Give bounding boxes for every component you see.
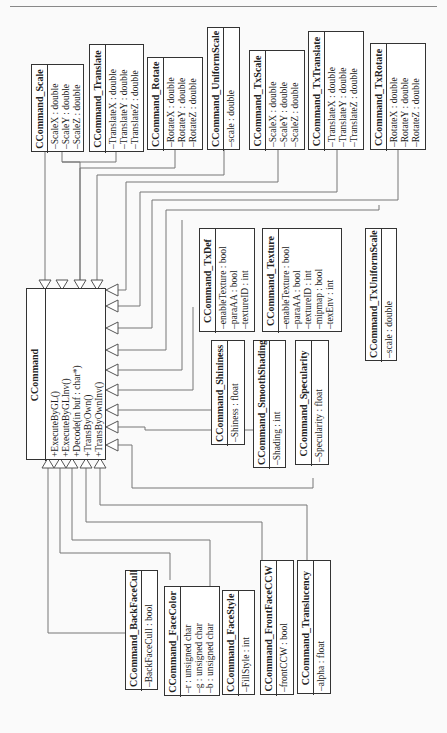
attribute: –textureID : int xyxy=(303,233,314,329)
class-name: CCommand_Specularity xyxy=(296,341,312,466)
attribute: –RotateY : double xyxy=(177,62,188,147)
attribute: –RotateZ : double xyxy=(411,48,422,147)
class-ccommand-txtranslate: CCommand_TxTranslate –TranslateX : doubl… xyxy=(308,31,364,150)
attribute: –enableTexture : bool xyxy=(218,233,229,329)
class-ccommand-frontfaceccw: CCommand_FrontFaceCCW –frontCCW : bool xyxy=(260,560,294,695)
class-ccommand-texture: CCommand_Texture –enableTexture : bool–p… xyxy=(262,228,342,332)
attribute: –Shading : int xyxy=(272,345,283,465)
attribute: –RotateZ : double xyxy=(188,62,199,147)
attribute: –ScaleX : double xyxy=(268,55,279,147)
attribute: –ScaleX : double xyxy=(50,69,61,149)
class-name: CCommand_Rotate xyxy=(148,58,164,151)
attribute: –Shiness : float xyxy=(230,345,241,442)
attribute: –BackFaceCull : bool xyxy=(144,575,155,687)
class-name: CCommand_Translucency xyxy=(298,561,314,695)
attribute: –r : unsigned char xyxy=(183,591,194,693)
attribute: –TranslateY : double xyxy=(338,36,349,147)
class-name: CCommand_TxDef xyxy=(200,229,216,333)
attribute: –RotateY : double xyxy=(400,48,411,147)
class-name: CCommand_TxTranslate xyxy=(309,32,325,151)
class-ccommand-scale: CCommand_Scale –ScaleX : double–ScaleY :… xyxy=(31,64,84,152)
class-name: CCommand_TxRotate xyxy=(371,44,387,151)
class-ccommand-shininess: CCommand_Shininess –Shiness : float xyxy=(211,340,245,445)
class-ccommand-translucency: CCommand_Translucency –alpha : float xyxy=(297,560,331,694)
method: +TransByOwnInv() xyxy=(94,293,105,457)
attribute: –scale : double xyxy=(226,32,237,147)
class-name: CCommand_FaceColor xyxy=(165,587,181,697)
attribute: –FillStyle : int xyxy=(241,595,252,692)
class-ccommand-txscale: CCommand_TxScale –ScaleX : double–ScaleY… xyxy=(249,50,305,150)
class-name: CCommand_UniformScale xyxy=(208,28,224,151)
method: +ExecuteByGL() xyxy=(50,293,61,457)
method: +ExecuteByGLInv() xyxy=(61,293,72,457)
class-ccommand-facestyle: CCommand_FaceStyle –FillStyle : int xyxy=(222,590,255,695)
attribute: –scale : double xyxy=(384,233,395,358)
attribute: –enableTexture : bool xyxy=(281,233,292,329)
class-ccommand-rotate: CCommand_Rotate –RotateX : double–Rotate… xyxy=(147,57,203,150)
attribute: –RotateX : double xyxy=(166,62,177,147)
class-name: CCommand xyxy=(27,289,46,461)
class-name: CCommand_SmoothShading xyxy=(254,341,270,469)
class-ccommand-backfacecull: CCommand_BackFaceCull –BackFaceCull : bo… xyxy=(125,570,158,690)
attribute: –mipmap : bool xyxy=(314,233,325,329)
attribute: –TranslateX : double xyxy=(108,49,119,149)
class-name: CCommand_Shininess xyxy=(212,341,228,446)
class-name: CCommand_Texture xyxy=(263,229,279,333)
attribute: –textureID : int xyxy=(240,233,251,329)
attribute: –RotateX : double xyxy=(389,48,400,147)
method: +TransByOwn() xyxy=(83,293,94,457)
attribute: –ScaleY : double xyxy=(61,69,72,149)
attribute: –Specularity : float xyxy=(314,345,325,462)
attribute: –TranslateZ : double xyxy=(130,49,141,149)
class-ccommand-txrotate: CCommand_TxRotate –RotateX : double–Rota… xyxy=(370,43,426,150)
attribute: –ScaleZ : double xyxy=(290,55,301,147)
class-name: CCommand_BackFaceCull xyxy=(126,571,142,691)
class-ccommand-smoothshading: CCommand_SmoothShading –Shading : int xyxy=(253,340,286,468)
attribute: –TranslateZ : double xyxy=(349,36,360,147)
attribute: –ScaleY : double xyxy=(279,55,290,147)
class-ccommand-uniformscale: CCommand_UniformScale –scale : double xyxy=(207,27,240,150)
class-ccommand-specularity: CCommand_Specularity –Specularity : floa… xyxy=(295,340,329,465)
attribute: –TranslateX : double xyxy=(327,36,338,147)
method: +Decode(in buf : char*) xyxy=(72,293,83,457)
attribute: –g : unsigned char xyxy=(194,591,205,693)
attribute: –texEnv : int xyxy=(325,233,336,329)
attribute: –paraAA : bool xyxy=(229,233,240,329)
attribute: –alpha : float xyxy=(316,565,327,691)
class-ccommand-translate: CCommand_Translate –TranslateX : double–… xyxy=(89,44,144,152)
attribute: –ScaleZ : double xyxy=(72,69,83,149)
class-name: CCommand_TxUniformScale xyxy=(366,229,382,362)
attribute: –TranslateY : double xyxy=(119,49,130,149)
class-name: CCommand_Translate xyxy=(90,45,106,153)
class-name: CCommand_FaceStyle xyxy=(223,591,239,696)
class-name: CCommand_FrontFaceCCW xyxy=(261,561,277,696)
class-ccommand-txdef: CCommand_TxDef –enableTexture : bool–par… xyxy=(199,228,255,332)
class-name: CCommand_TxScale xyxy=(250,51,266,151)
attribute: –frontCCW : bool xyxy=(279,565,290,692)
class-ccommand-facecolor: CCommand_FaceColor –r : unsigned char–g … xyxy=(164,586,220,696)
class-ccommand-txuniformscale: CCommand_TxUniformScale –scale : double xyxy=(365,228,397,361)
class-name: CCommand_Scale xyxy=(32,65,48,153)
class-ccommand: CCommand +ExecuteByGL() +ExecuteByGLInv(… xyxy=(26,288,106,460)
attribute: –paraAA : bool xyxy=(292,233,303,329)
attribute: –b : unsigned char xyxy=(205,591,216,693)
